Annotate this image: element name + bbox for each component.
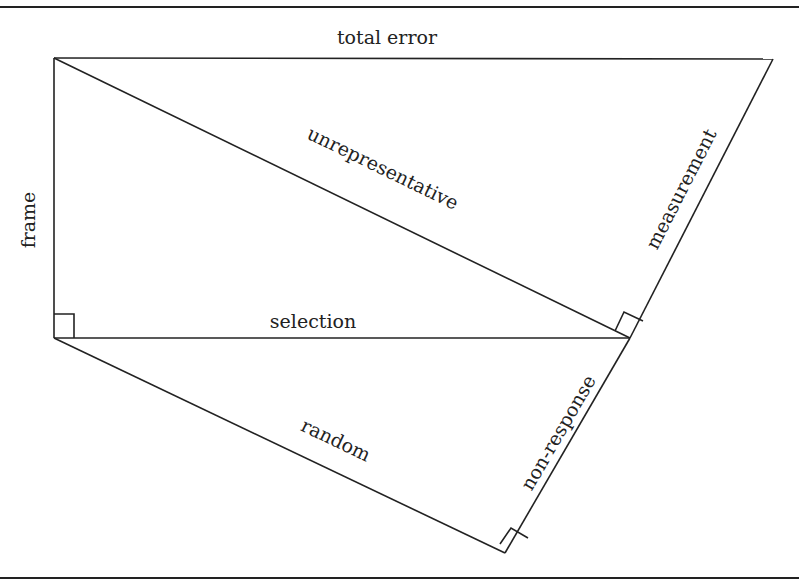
label-random: random bbox=[298, 414, 375, 466]
right-angle-marker-frame-selection bbox=[54, 314, 74, 338]
label-unrepresentative: unrepresentative bbox=[304, 122, 462, 214]
edge-non-response bbox=[505, 338, 630, 553]
edge-random bbox=[54, 338, 505, 553]
edge-total-error bbox=[54, 58, 773, 59]
edge-measurement bbox=[630, 59, 773, 338]
label-non-response: non-response bbox=[516, 371, 600, 494]
label-total-error: total error bbox=[337, 26, 438, 48]
label-selection: selection bbox=[270, 310, 356, 332]
error-diagram: total error frame unrepresentative measu… bbox=[0, 0, 799, 582]
label-frame: frame bbox=[17, 192, 39, 249]
label-measurement: measurement bbox=[641, 125, 721, 253]
edge-unrepresentative bbox=[54, 58, 630, 338]
